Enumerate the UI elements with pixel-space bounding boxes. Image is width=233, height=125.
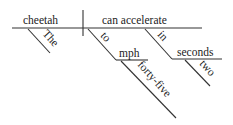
- prep1-word: to: [99, 29, 114, 44]
- prep1-object-modifier-word: forty-five: [135, 58, 174, 99]
- prep2-word: in: [156, 28, 171, 43]
- prep2-object-modifier-word: two: [198, 57, 219, 78]
- sentence-diagram: cheetah can accelerate The to mph forty-…: [0, 0, 233, 125]
- prep2-object-word: seconds: [177, 46, 214, 58]
- subject-word: cheetah: [23, 14, 58, 26]
- predicate-word: can accelerate: [102, 14, 167, 26]
- prep1-object-word: mph: [119, 47, 140, 60]
